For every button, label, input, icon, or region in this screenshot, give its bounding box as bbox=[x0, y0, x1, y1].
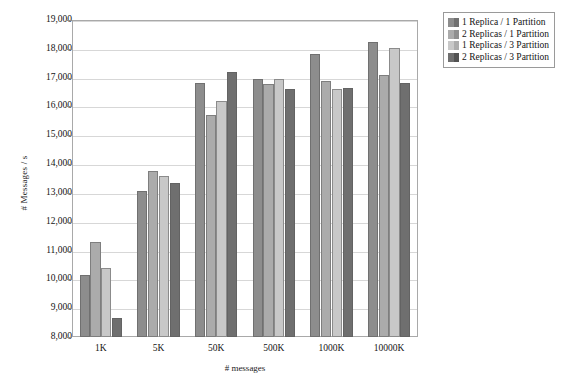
y-tick-label: 11,000 bbox=[10, 246, 72, 256]
y-tick-label: 19,000 bbox=[10, 15, 72, 25]
bar bbox=[195, 83, 205, 337]
legend-item[interactable]: 2 Replicas / 1 Partition bbox=[448, 29, 549, 41]
bar bbox=[263, 84, 273, 337]
x-tick-label: 500K bbox=[263, 343, 284, 353]
bar bbox=[321, 81, 331, 337]
y-tick-label: 14,000 bbox=[10, 159, 72, 169]
legend-swatch-icon bbox=[448, 41, 459, 50]
y-axis: 8,0009,00010,00011,00012,00013,00014,000… bbox=[0, 0, 72, 383]
y-tick-label: 8,000 bbox=[10, 332, 72, 342]
bar bbox=[170, 183, 180, 337]
bar bbox=[389, 48, 399, 337]
legend-swatch-icon bbox=[448, 53, 459, 62]
x-axis-title: # messages bbox=[72, 363, 418, 373]
legend-item[interactable]: 1 Replicas / 3 Partition bbox=[448, 40, 549, 52]
bar-chart: # Messages / s 8,0009,00010,00011,00012,… bbox=[0, 0, 578, 383]
legend-item[interactable]: 1 Replica / 1 Partition bbox=[448, 17, 549, 29]
x-tick-label: 50K bbox=[208, 343, 224, 353]
y-tick-label: 16,000 bbox=[10, 102, 72, 112]
x-tick-label: 5K bbox=[153, 343, 165, 353]
bar-group bbox=[310, 20, 353, 337]
bar-group bbox=[368, 20, 411, 337]
x-tick-label: 10000K bbox=[374, 343, 405, 353]
legend-label: 1 Replica / 1 Partition bbox=[462, 17, 545, 29]
y-tick-label: 10,000 bbox=[10, 275, 72, 285]
bar-group bbox=[253, 20, 296, 337]
y-tick-mark bbox=[66, 337, 72, 338]
bar-groups bbox=[72, 20, 418, 337]
bar bbox=[379, 75, 389, 337]
bar-group bbox=[137, 20, 180, 337]
bar bbox=[137, 191, 147, 337]
bar-group bbox=[80, 20, 123, 337]
bar bbox=[148, 171, 158, 337]
legend-label: 2 Replicas / 3 Partition bbox=[462, 52, 549, 64]
bar bbox=[343, 88, 353, 337]
y-tick-label: 13,000 bbox=[10, 188, 72, 198]
bar bbox=[159, 176, 169, 337]
y-tick-label: 15,000 bbox=[10, 131, 72, 141]
bar bbox=[216, 101, 226, 337]
y-tick-label: 12,000 bbox=[10, 217, 72, 227]
bar bbox=[368, 42, 378, 337]
bar bbox=[332, 89, 342, 337]
y-tick-label: 17,000 bbox=[10, 73, 72, 83]
bar-group bbox=[195, 20, 238, 337]
bar bbox=[274, 79, 284, 337]
bar bbox=[285, 89, 295, 337]
legend-label: 1 Replicas / 3 Partition bbox=[462, 40, 549, 52]
x-tick-label: 1K bbox=[95, 343, 107, 353]
legend: 1 Replica / 1 Partition2 Replicas / 1 Pa… bbox=[443, 12, 555, 68]
bar bbox=[206, 115, 216, 337]
bar bbox=[112, 318, 122, 337]
bar bbox=[310, 54, 320, 337]
legend-swatch-icon bbox=[448, 30, 459, 39]
bar bbox=[80, 275, 90, 337]
bar bbox=[227, 72, 237, 337]
bar bbox=[90, 242, 100, 337]
y-tick-label: 9,000 bbox=[10, 303, 72, 313]
x-tick-label: 1000K bbox=[319, 343, 345, 353]
y-tick-label: 18,000 bbox=[10, 44, 72, 54]
bar bbox=[400, 83, 410, 337]
bar bbox=[253, 79, 263, 337]
bar bbox=[101, 268, 111, 337]
legend-label: 2 Replicas / 1 Partition bbox=[462, 29, 549, 41]
legend-item[interactable]: 2 Replicas / 3 Partition bbox=[448, 52, 549, 64]
legend-swatch-icon bbox=[448, 18, 459, 27]
